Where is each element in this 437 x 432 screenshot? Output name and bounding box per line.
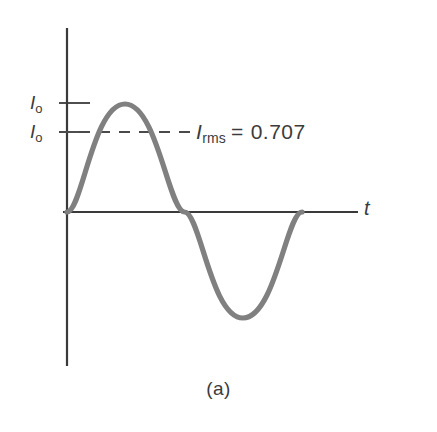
y-tick-label-peak-subscript: o — [35, 101, 42, 116]
sine-wave-plot — [0, 0, 437, 432]
y-tick-label-rms-subscript: o — [35, 130, 42, 145]
rms-annotation-subscript: rms — [202, 130, 226, 146]
y-tick-label-peak: Io — [30, 93, 43, 112]
y-tick-label-rms: Io — [30, 122, 43, 141]
rms-annotation-equals: = — [231, 120, 244, 143]
t-axis-label: t — [364, 198, 370, 218]
rms-annotation-value: 0.707 — [251, 120, 306, 143]
figure-container: Io Io Irms=0.707 t (a) — [0, 0, 437, 432]
figure-caption: (a) — [0, 378, 437, 400]
rms-value-annotation: Irms=0.707 — [196, 121, 306, 142]
